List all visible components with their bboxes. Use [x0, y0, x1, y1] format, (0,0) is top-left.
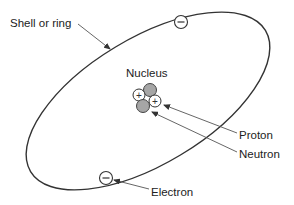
proton-label: Proton [239, 129, 273, 141]
electron-pointer [114, 180, 149, 189]
neutron-particle [137, 100, 150, 113]
nucleus: + + [133, 84, 161, 113]
shell-pointer [78, 24, 110, 49]
proton-pointer [164, 105, 237, 133]
electron-bottom [100, 172, 113, 185]
electron-label: Electron [151, 186, 193, 198]
shell-label: Shell or ring [10, 17, 71, 29]
neutron-label: Neutron [239, 148, 280, 160]
electron-top [175, 16, 188, 29]
svg-text:+: + [152, 96, 158, 107]
atom-diagram: + + Shell or ring Nucleus Proton Neutron… [0, 0, 294, 205]
nucleus-label: Nucleus [126, 67, 168, 79]
svg-text:+: + [136, 90, 142, 101]
